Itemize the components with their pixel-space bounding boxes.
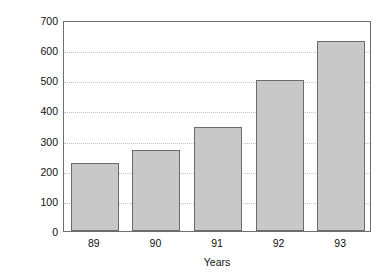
y-axis-tick-label: 0 (24, 227, 58, 237)
x-axis-tick-label: 93 (309, 236, 371, 250)
y-axis-tick-label: 100 (24, 197, 58, 207)
y-axis-tick-label: 500 (24, 76, 58, 86)
y-axis-tick-label: 400 (24, 106, 58, 116)
bar (194, 127, 242, 231)
bar (256, 80, 304, 231)
bar (317, 41, 365, 231)
x-axis-tick-label: 90 (125, 236, 187, 250)
x-axis-tick-label: 89 (63, 236, 125, 250)
x-axis-tick-label: 91 (186, 236, 248, 250)
y-axis-tick-label: 700 (24, 16, 58, 26)
bars-group (64, 22, 370, 231)
plot-area (63, 21, 371, 232)
x-axis-tick-labels: 8990919293 (63, 236, 371, 250)
y-axis-tick-labels: 7006005004003002001000 (24, 0, 58, 279)
bar (71, 163, 119, 231)
y-axis-tick-label: 300 (24, 137, 58, 147)
y-axis-tick-label: 600 (24, 46, 58, 56)
bar-chart-figure: $ Millions 7006005004003002001000 899091… (0, 0, 383, 279)
y-axis-tick-label: 200 (24, 167, 58, 177)
x-axis-tick-label: 92 (248, 236, 310, 250)
x-axis-title: Years (63, 256, 371, 268)
bar (132, 150, 180, 231)
